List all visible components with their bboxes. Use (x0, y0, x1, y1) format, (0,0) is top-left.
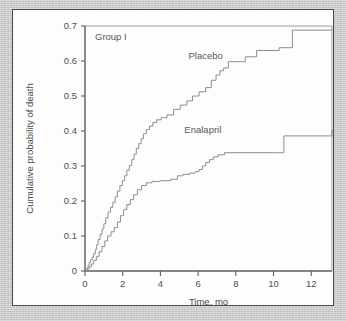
x-tick-label: 2 (120, 278, 125, 289)
x-tick-label: 4 (158, 278, 163, 289)
figure-root: 00.10.20.30.40.50.60.7024681012Time, moC… (0, 0, 346, 321)
series-label-placebo: Placebo (188, 50, 222, 61)
y-tick-label: 0.7 (64, 20, 77, 31)
y-tick-label: 0.6 (64, 55, 77, 66)
y-axis-title: Cumulative probability of death (24, 83, 35, 213)
y-tick-label: 0 (72, 265, 77, 276)
y-tick-label: 0.4 (64, 125, 77, 136)
figure-panel: 00.10.20.30.40.50.60.7024681012Time, moC… (12, 9, 334, 306)
plot-axes (85, 26, 332, 271)
y-tick-label: 0.2 (64, 195, 77, 206)
series-label-enalapril: Enalapril (184, 124, 221, 135)
series-curve-enalapril (85, 130, 332, 271)
x-tick-label: 8 (233, 278, 238, 289)
plot-frame (85, 26, 332, 271)
x-tick-label: 10 (268, 278, 279, 289)
x-tick-label: 0 (82, 278, 87, 289)
x-axis-title: Time, mo (189, 296, 228, 307)
group-annotation: Group I (95, 31, 127, 42)
y-tick-label: 0.1 (64, 230, 77, 241)
kaplan-meier-chart: 00.10.20.30.40.50.60.7024681012Time, moC… (13, 10, 335, 307)
series-curve-placebo (85, 30, 332, 271)
x-tick-label: 6 (195, 278, 200, 289)
x-tick-label: 12 (306, 278, 317, 289)
y-tick-label: 0.3 (64, 160, 77, 171)
y-tick-label: 0.5 (64, 90, 77, 101)
